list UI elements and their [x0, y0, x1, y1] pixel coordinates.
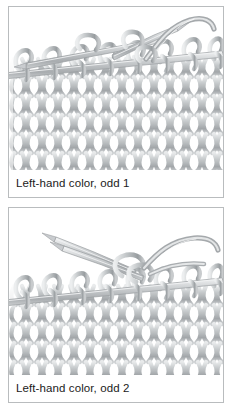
panel-1-caption: Left-hand color, odd 1	[9, 170, 223, 197]
knitting-illustration-1	[9, 7, 223, 170]
figure-page: Left-hand color, odd 1	[0, 0, 233, 409]
figure-panel-2: Left-hand color, odd 2	[8, 207, 224, 403]
panel-2-caption: Left-hand color, odd 2	[9, 375, 223, 402]
figure-panel-1: Left-hand color, odd 1	[8, 6, 224, 198]
knitting-illustration-2	[9, 208, 223, 375]
